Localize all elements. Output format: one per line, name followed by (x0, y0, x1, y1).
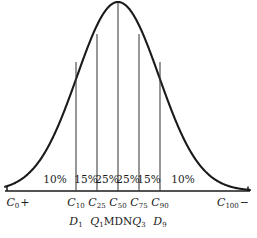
bell-curve-path (5, 2, 250, 190)
distribution-curve-svg (0, 0, 257, 238)
normal-distribution-figure: 10%15%25%25%15%10% C10D1C25Q1C50MDNC75Q3… (0, 0, 257, 238)
